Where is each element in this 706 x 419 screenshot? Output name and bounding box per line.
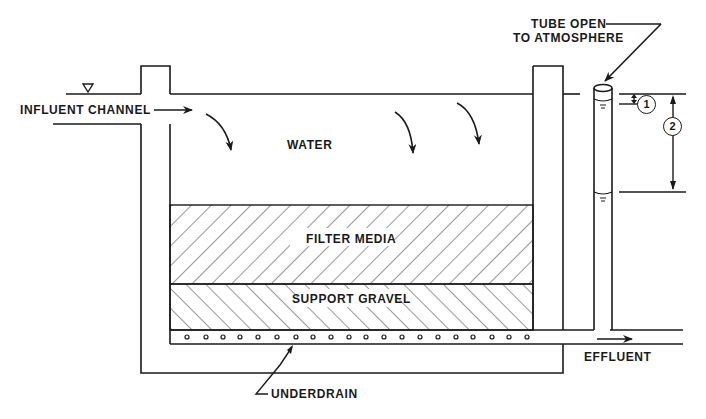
underdrain-orifices — [185, 335, 529, 339]
flow-arrow-icon — [395, 112, 413, 153]
water-level-icon — [83, 84, 93, 92]
flow-arrow-icon — [206, 114, 231, 150]
right-wall — [533, 66, 563, 330]
tube-label-line2: TO ATMOSPHERE — [513, 31, 624, 45]
marker-1: 1 — [637, 95, 656, 114]
left-wall-top — [141, 66, 170, 94]
water-label: WATER — [287, 138, 332, 152]
filter-media-label: FILTER MEDIA — [306, 232, 396, 246]
effluent-label: EFFLUENT — [584, 350, 651, 364]
influent-channel-label: INFLUENT CHANNEL — [20, 103, 151, 117]
marker-2: 2 — [663, 117, 682, 136]
tube-label-line1: TUBE OPEN — [531, 17, 606, 31]
piezometer-tube — [594, 85, 612, 331]
underdrain-label: UNDERDRAIN — [271, 387, 358, 401]
flow-arrow-icon — [457, 103, 479, 144]
support-gravel-label: SUPPORT GRAVEL — [292, 292, 411, 306]
